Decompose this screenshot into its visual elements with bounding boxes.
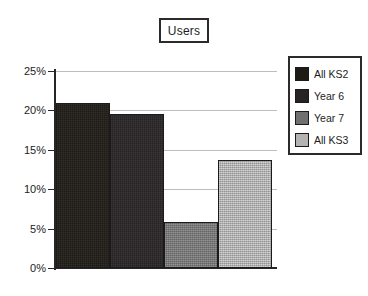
legend-swatch-year-6 [295, 89, 309, 103]
legend-label-year-6: Year 6 [314, 91, 344, 102]
bar-all-ks3 [218, 160, 272, 268]
y-tick-label-0: 0% [2, 263, 46, 274]
legend-label-all-ks3: All KS3 [314, 135, 348, 146]
legend-item-year-7: Year 7 [295, 107, 356, 129]
y-tick-label-15: 15% [2, 145, 46, 156]
y-axis-labels: 25% 20% 15% 10% 5% 0% [0, 0, 46, 296]
gridline-25 [56, 71, 277, 72]
legend-item-all-ks2: All KS2 [295, 63, 356, 85]
legend-swatch-all-ks3 [295, 133, 309, 147]
y-tick-mark-5 [48, 229, 54, 230]
chart-title: Users [168, 25, 200, 37]
bar-all-ks2 [56, 103, 110, 268]
bar-year-6 [110, 114, 164, 268]
legend-item-all-ks3: All KS3 [295, 129, 356, 151]
y-tick-label-20: 20% [2, 105, 46, 116]
y-tick-mark-25 [48, 71, 54, 72]
bar-year-7 [164, 222, 218, 268]
legend-item-year-6: Year 6 [295, 85, 356, 107]
plot-area [56, 71, 277, 268]
legend-label-all-ks2: All KS2 [314, 69, 348, 80]
y-tick-mark-15 [48, 150, 54, 151]
chart-legend: All KS2 Year 6 Year 7 All KS3 [288, 56, 362, 155]
y-tick-label-25: 25% [2, 66, 46, 77]
y-tick-label-10: 10% [2, 184, 46, 195]
y-tick-mark-10 [48, 189, 54, 190]
legend-label-year-7: Year 7 [314, 113, 344, 124]
chart-title-box: Users [159, 18, 209, 43]
y-tick-mark-20 [48, 110, 54, 111]
legend-swatch-all-ks2 [295, 67, 309, 81]
y-tick-label-5: 5% [2, 224, 46, 235]
legend-swatch-year-7 [295, 111, 309, 125]
y-tick-mark-0 [48, 268, 54, 269]
